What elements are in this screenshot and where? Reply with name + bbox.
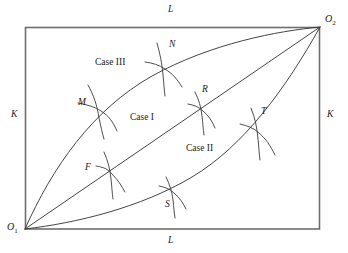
diagram-canvas — [0, 0, 348, 253]
axis-label-right-K: K — [327, 110, 333, 120]
point-label-s: S — [165, 200, 170, 210]
case-label-two: Case II — [186, 144, 213, 154]
point-label-t: T — [261, 107, 266, 117]
point-label-m: M — [78, 98, 86, 108]
axis-label-top-L: L — [168, 5, 173, 15]
indifference-curve-f-a — [104, 152, 113, 199]
tangency-cross-f — [96, 152, 125, 199]
point-label-r: R — [202, 85, 208, 95]
tangency-cross-r — [188, 92, 215, 135]
indifference-curve-r-a — [195, 92, 204, 135]
origin-o1-sub: 1 — [14, 227, 18, 235]
origin-o2-sub: 2 — [332, 19, 336, 27]
axis-label-bottom-L: L — [168, 236, 173, 246]
tangency-cross-m — [78, 85, 117, 139]
indifference-curve-t-a — [251, 108, 260, 160]
indifference-curve-s-a — [166, 177, 175, 218]
edgeworth-box-figure: L L K K O1 O2 Case III Case I Case II M … — [0, 0, 348, 253]
case-label-three: Case III — [95, 58, 125, 68]
case-label-one: Case I — [130, 113, 154, 123]
origin-label-o2: O2 — [325, 14, 336, 27]
point-label-f: F — [85, 163, 91, 173]
tangency-cross-t — [240, 108, 275, 160]
axis-label-left-K: K — [11, 110, 17, 120]
origin-label-o1: O1 — [7, 222, 18, 235]
point-label-n: N — [169, 40, 175, 50]
indifference-curve-m-a — [88, 85, 104, 139]
indifference-curve-t-b — [240, 124, 275, 155]
